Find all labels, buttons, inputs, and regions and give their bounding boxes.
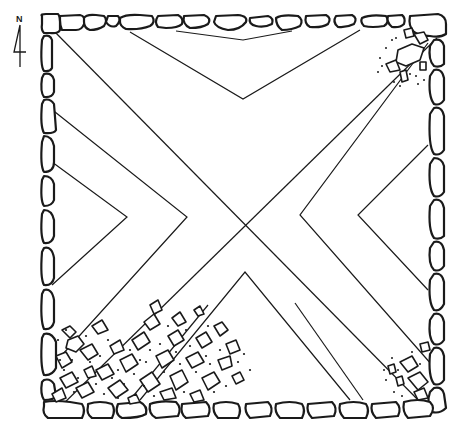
right-wall — [428, 40, 446, 413]
enclosure-plan: N — [0, 0, 460, 432]
north-label: N — [16, 14, 23, 24]
rubble-bottom-right — [383, 342, 430, 400]
north-arrow-icon: N — [14, 14, 26, 67]
rubble-top-right — [377, 28, 428, 87]
top-wall — [42, 14, 447, 37]
left-wall — [41, 36, 56, 401]
bottom-wall — [44, 400, 434, 418]
rubble-bottom-left — [52, 300, 251, 404]
